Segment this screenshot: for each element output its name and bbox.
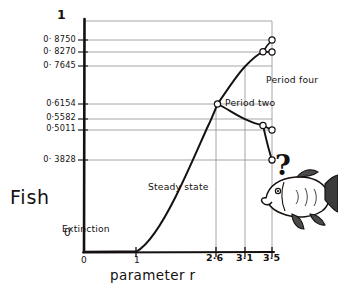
x-axis-title: parameter r bbox=[110, 267, 196, 283]
fish-cartoon-icon bbox=[262, 170, 338, 229]
endpoint-05011 bbox=[269, 127, 275, 133]
x-tick-label-1: 1 bbox=[134, 255, 140, 265]
x-axis-zero-label: 0 bbox=[81, 255, 87, 265]
fish-dorsal-fin bbox=[297, 170, 318, 177]
vertical-guide-lines bbox=[216, 21, 272, 252]
y-tick-label-03828: 0· 3828 bbox=[18, 155, 76, 164]
annotation-period-four: Period four bbox=[266, 74, 318, 85]
annotation-extinction: Extinction bbox=[62, 223, 110, 234]
y-axis bbox=[84, 19, 85, 252]
fish-pupil bbox=[277, 190, 279, 192]
x-tick-label-26: 2·6 bbox=[206, 253, 223, 263]
y-tick-label-05582: 0·5582 bbox=[18, 113, 76, 122]
fish-anal-fin bbox=[310, 214, 325, 225]
node-period2-fork-upper bbox=[260, 49, 266, 55]
endpoint-0827 bbox=[269, 49, 275, 55]
horizontal-guide-lines bbox=[84, 21, 272, 160]
node-period1-to-period2 bbox=[214, 101, 220, 107]
curve-steady-state bbox=[137, 104, 218, 252]
fish-body bbox=[266, 177, 329, 217]
endpoint-0875 bbox=[269, 37, 275, 43]
y-tick-label-0827: 0· 8270 bbox=[18, 47, 76, 56]
y-tick-label-06154: 0·6154 bbox=[18, 99, 76, 108]
node-period2-fork-lower bbox=[260, 122, 266, 128]
x-tick-label-35: 3·5 bbox=[263, 253, 280, 263]
x-tick-label-31: 3·1 bbox=[236, 253, 253, 263]
y-axis-title: Fish bbox=[10, 186, 50, 208]
annotation-steady-state: Steady state bbox=[148, 181, 209, 192]
y-tick-label-07645: 0· 7645 bbox=[18, 61, 76, 70]
y-tick-label-05011: 0·5011 bbox=[18, 124, 76, 133]
question-mark-annotation: ? bbox=[275, 150, 291, 181]
bifurcation-figure: 1 0· 8750 0· 8270 0· 7645 0·6154 0·5582 … bbox=[0, 0, 338, 292]
annotation-period-two: Period two bbox=[225, 97, 275, 108]
y-tick-label-0875: 0· 8750 bbox=[18, 35, 76, 44]
y-axis-max-label: 1 bbox=[57, 7, 66, 22]
